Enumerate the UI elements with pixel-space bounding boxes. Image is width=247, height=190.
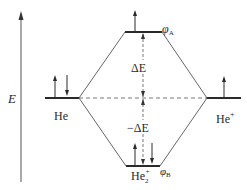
gap-mid-up-arrowhead-icon: [141, 99, 145, 105]
energy-axis-label: E: [7, 91, 16, 106]
gap-mid-down-arrowhead-icon: [141, 91, 145, 97]
phi-b-label: φB: [160, 165, 171, 179]
he-plus-label: He+: [216, 110, 235, 126]
electron-up-arrowhead-icon: [133, 143, 137, 149]
electron-up-arrowhead-icon: [53, 75, 57, 81]
mo-diagram: E He He+ φA φB He2+: [0, 0, 247, 190]
minus-delta-e-label: −ΔE: [127, 121, 149, 135]
gap-bottom-arrowhead-icon: [141, 159, 145, 165]
electron-down-arrowhead-icon: [65, 90, 69, 96]
electron-up-arrowhead-icon: [222, 76, 226, 82]
correlation-line-he-to-phi-b: [79, 98, 126, 166]
delta-e-label: ΔE: [131, 61, 146, 75]
gap-top-arrowhead-icon: [141, 33, 145, 39]
he-level: He: [45, 75, 79, 123]
electron-up-arrowhead-icon: [133, 10, 137, 16]
reference-lines: [79, 33, 207, 165]
he-label: He: [54, 109, 68, 123]
bonding-level: φB He2+: [126, 143, 171, 185]
he2-plus-label: He2+: [131, 168, 150, 185]
energy-axis: E: [7, 11, 24, 182]
correlation-line-he-to-phi-a: [79, 32, 125, 98]
antibonding-level: φA: [125, 10, 174, 37]
he-plus-level: He+: [207, 76, 241, 126]
electron-down-arrowhead-icon: [150, 158, 154, 164]
correlation-line-phi-b-to-he-plus: [160, 98, 207, 166]
energy-axis-arrow-icon: [19, 11, 24, 20]
correlation-line-phi-a-to-he-plus: [162, 32, 207, 98]
